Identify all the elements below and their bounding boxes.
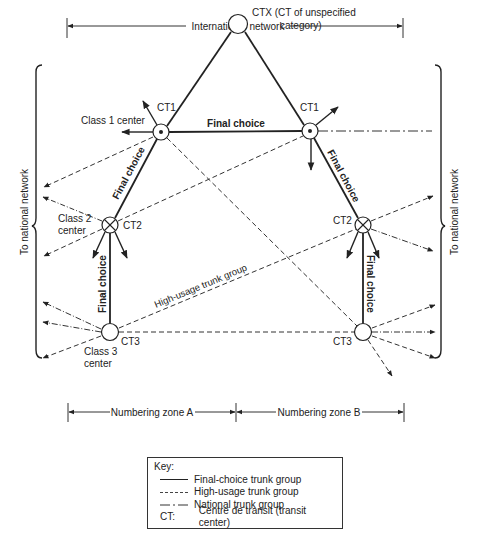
legend-key: Key: Final-choice trunk group High-usage…: [147, 457, 343, 529]
ct2-left-label: CT2: [123, 220, 142, 231]
node-ctx: [229, 15, 248, 34]
class1-center-label: Class 1 center: [81, 115, 146, 126]
ct3-left-label: CT3: [121, 336, 140, 347]
right-brace: [435, 65, 445, 358]
dashed-line-icon: [160, 492, 188, 493]
left-brace: [32, 65, 42, 358]
ct1-left-label: CT1: [157, 102, 176, 113]
legend-item-high-usage: High-usage trunk group: [154, 486, 336, 499]
ct2-cross-icons: [105, 220, 369, 231]
dash-dot-line-icon: [160, 503, 188, 507]
high-usage-trunk-label: High-usage trunk group: [153, 262, 249, 310]
right-national-network-label: To national network: [449, 168, 460, 255]
ct3-right-label: CT3: [333, 336, 352, 347]
numbering-zone-b-label: Numbering zone B: [278, 407, 361, 418]
class2-center-label: center: [58, 225, 86, 236]
final-choice-left-ct2-ct3-label: Final choice: [97, 255, 108, 313]
ctx-label: CTX (CT of unspecified: [252, 7, 356, 18]
ct1-left-dot-icon: [159, 130, 163, 134]
legend-item-final-choice: Final-choice trunk group: [154, 474, 336, 487]
final-choice-ct1-label: Final choice: [207, 118, 265, 129]
ct1-right-dot-icon: [308, 129, 312, 133]
numbering-zone-a-label: Numbering zone A: [111, 407, 194, 418]
ct-abbreviation: CT:: [160, 511, 199, 524]
solid-line-icon: [160, 479, 188, 480]
ctx-label-2: category): [280, 20, 322, 31]
class2-label: Class 2: [58, 213, 92, 224]
node-ct3-left: [102, 324, 119, 341]
legend-label: High-usage trunk group: [194, 486, 299, 499]
class3-label: Class 3: [84, 346, 118, 357]
legend-item-ct: CT: Centre de transit (transit center): [154, 511, 336, 524]
legend-label: Final-choice trunk group: [194, 474, 301, 487]
legend-title: Key:: [154, 461, 336, 474]
ct-definition: Centre de transit (transit center): [199, 505, 336, 530]
ct1-right-label: CT1: [300, 102, 319, 113]
final-choice-right-ct2-ct3-label: Final choice: [365, 255, 376, 313]
node-ct3-right: [355, 324, 372, 341]
ct2-right-label: CT2: [333, 215, 352, 226]
left-national-network-label: To national network: [19, 168, 30, 255]
final-choice-right-ct1-ct2-label: Final choice: [325, 148, 362, 205]
final-choice-edges: [110, 32, 363, 323]
class3-center-label: center: [84, 358, 112, 369]
